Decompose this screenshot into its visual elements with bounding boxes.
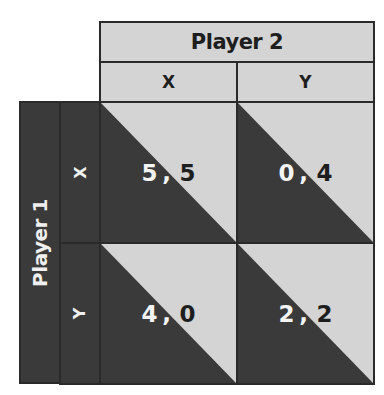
payoff-cell-yy: 2 , 2	[236, 242, 375, 385]
player1-strategy-y-label: Y	[71, 308, 90, 320]
payoff-cell-xx: 5 , 5	[99, 101, 238, 244]
player2-payoff: 0	[176, 301, 220, 327]
payoff-cell-yx: 4 , 0	[99, 242, 238, 385]
player1-payoff: 5	[118, 160, 158, 186]
player2-payoff: 2	[313, 301, 357, 327]
player1-strategy-x: X	[59, 101, 101, 244]
player2-payoff: 5	[176, 160, 220, 186]
player2-strategy-y: Y	[236, 61, 375, 103]
payoff-cell-xy: 0 , 4	[236, 101, 375, 244]
payoff-separator: ,	[295, 160, 313, 186]
player1-payoff: 2	[255, 301, 295, 327]
player2-header: Player 2	[99, 21, 375, 63]
player1-header: Player 1	[19, 101, 61, 384]
payoff-pair: 0 , 4	[238, 103, 373, 242]
player2-payoff: 4	[313, 160, 357, 186]
payoff-pair: 4 , 0	[101, 244, 236, 383]
payoff-separator: ,	[158, 301, 176, 327]
player1-payoff: 4	[118, 301, 158, 327]
payoff-separator: ,	[158, 160, 176, 186]
player1-strategy-x-label: X	[71, 166, 90, 178]
player1-payoff: 0	[255, 160, 295, 186]
player1-label: Player 1	[28, 199, 52, 287]
player2-strategy-x-label: X	[162, 72, 175, 92]
payoff-pair: 5 , 5	[101, 103, 236, 242]
player2-strategy-x: X	[99, 61, 238, 103]
player1-strategy-y: Y	[59, 242, 101, 385]
payoff-pair: 2 , 2	[238, 244, 373, 383]
player2-label: Player 2	[191, 30, 283, 54]
payoff-separator: ,	[295, 301, 313, 327]
player2-strategy-y-label: Y	[299, 72, 311, 92]
